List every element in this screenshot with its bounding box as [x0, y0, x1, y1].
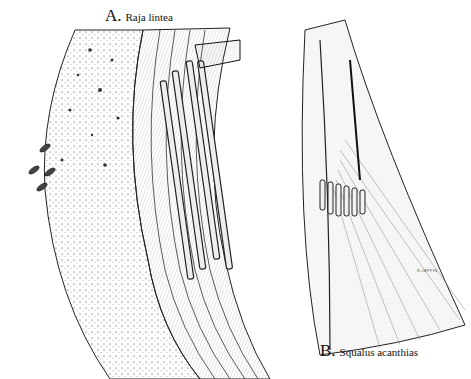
illustration: A. Raja lintea B. Squalus acanthias R.JE…: [0, 0, 471, 379]
fin-drawings: [0, 0, 471, 379]
panel-a-label: A. Raja lintea: [105, 6, 173, 26]
artist-signature: R.JEPPIN: [417, 268, 437, 273]
panel-b-label: B. Squalus acanthias: [320, 341, 418, 361]
panel-b-drawing: [302, 20, 465, 355]
panel-a-drawing: [28, 28, 270, 379]
